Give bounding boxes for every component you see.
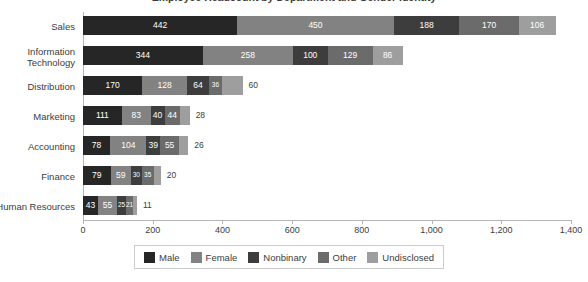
bar-value-label: 21 xyxy=(126,202,133,209)
bar-value-label: 64 xyxy=(193,81,202,90)
bar-segment[interactable]: 55 xyxy=(98,196,117,215)
legend-item[interactable]: Other xyxy=(318,252,357,263)
bar-value-label: 40 xyxy=(153,111,162,120)
bar-segment[interactable]: 442 xyxy=(83,16,237,35)
legend-item[interactable]: Nonbinary xyxy=(248,252,306,263)
bar-segment[interactable]: 170 xyxy=(459,16,518,35)
stacked-bar[interactable]: 442450188170106 xyxy=(83,16,556,35)
bar-value-label: 43 xyxy=(86,201,95,210)
legend-label: Female xyxy=(206,252,238,263)
bar-segment[interactable]: 25 xyxy=(117,196,126,215)
x-axis-tick xyxy=(432,220,433,224)
bar-value-label: 60 xyxy=(249,81,258,90)
legend-item[interactable]: Male xyxy=(144,252,180,263)
bar-segment[interactable]: 106 xyxy=(519,16,556,35)
bar-segment[interactable]: 344 xyxy=(83,46,203,65)
legend-swatch xyxy=(144,252,155,263)
bar-segment[interactable]: 26 xyxy=(179,136,188,155)
bar-value-label: 344 xyxy=(136,51,150,60)
x-axis-tick-label: 1,000 xyxy=(420,225,443,235)
legend-item[interactable]: Undisclosed xyxy=(367,252,434,263)
bar-segment[interactable]: 36 xyxy=(209,76,222,95)
bar-value-label: 83 xyxy=(131,111,140,120)
bar-segment[interactable]: 129 xyxy=(328,46,373,65)
legend-swatch xyxy=(248,252,259,263)
bar-segment[interactable]: 55 xyxy=(160,136,179,155)
x-axis-tick-label: 0 xyxy=(80,225,85,235)
bar-value-label: 258 xyxy=(241,51,255,60)
category-label: Human Resources xyxy=(0,201,75,212)
legend-swatch xyxy=(318,252,329,263)
bar-segment[interactable]: 188 xyxy=(394,16,460,35)
bar-value-label: 39 xyxy=(149,141,158,150)
bar-value-label: 86 xyxy=(383,51,392,60)
bar-segment[interactable]: 11 xyxy=(133,196,137,215)
stacked-bar[interactable]: 170128643660 xyxy=(83,76,243,95)
bar-value-label: 28 xyxy=(196,111,205,120)
bar-value-label: 450 xyxy=(308,21,322,30)
bar-segment[interactable]: 28 xyxy=(180,106,190,125)
bar-segment[interactable]: 128 xyxy=(142,76,187,95)
legend-swatch xyxy=(367,252,378,263)
bar-segment[interactable]: 43 xyxy=(83,196,98,215)
bar-segment[interactable]: 450 xyxy=(237,16,394,35)
stacked-bar[interactable]: 7959303520 xyxy=(83,166,161,185)
bar-segment[interactable]: 30 xyxy=(131,166,141,185)
bar-value-label: 170 xyxy=(482,21,496,30)
bar-segment[interactable]: 86 xyxy=(373,46,403,65)
chart-row: Distribution170128643660 xyxy=(83,76,571,95)
bar-value-label: 78 xyxy=(92,141,101,150)
stacked-bar[interactable]: 4355252111 xyxy=(83,196,137,215)
category-label: Accounting xyxy=(0,141,75,152)
stacked-bar[interactable]: 11183404428 xyxy=(83,106,190,125)
x-axis-tick-label: 200 xyxy=(145,225,160,235)
category-label: Finance xyxy=(0,171,75,182)
category-label: Sales xyxy=(0,21,75,32)
stacked-bar[interactable]: 34425810012986 xyxy=(83,46,403,65)
legend-label: Other xyxy=(333,252,357,263)
bar-segment[interactable]: 104 xyxy=(110,136,146,155)
bar-segment[interactable]: 35 xyxy=(142,166,154,185)
category-label: Marketing xyxy=(0,111,75,122)
chart-row: Marketing11183404428 xyxy=(83,106,571,125)
chart-row: Accounting78104395526 xyxy=(83,136,571,155)
bar-segment[interactable]: 111 xyxy=(83,106,122,125)
bar-value-label: 79 xyxy=(92,171,101,180)
bar-value-label: 111 xyxy=(96,111,109,120)
bar-segment[interactable]: 44 xyxy=(165,106,180,125)
bar-segment[interactable]: 83 xyxy=(122,106,151,125)
chart-title: Employee Headcount by Department and Gen… xyxy=(0,0,588,3)
bar-segment[interactable]: 39 xyxy=(146,136,160,155)
x-axis-tick xyxy=(292,220,293,224)
x-axis-tick-label: 1,400 xyxy=(560,225,583,235)
plot-area: Sales442450188170106Information Technolo… xyxy=(83,12,571,220)
bar-value-label: 36 xyxy=(212,82,219,89)
bar-segment[interactable]: 40 xyxy=(151,106,165,125)
category-label: Information Technology xyxy=(0,46,75,68)
bar-segment[interactable]: 78 xyxy=(83,136,110,155)
legend-item[interactable]: Female xyxy=(191,252,238,263)
bar-segment[interactable]: 79 xyxy=(83,166,111,185)
bar-segment[interactable]: 258 xyxy=(203,46,293,65)
x-axis-tick xyxy=(153,220,154,224)
bar-value-label: 35 xyxy=(144,172,151,179)
chart-row: Human Resources4355252111 xyxy=(83,196,571,215)
bar-segment[interactable]: 20 xyxy=(154,166,161,185)
bar-segment[interactable]: 59 xyxy=(111,166,132,185)
bar-segment[interactable]: 100 xyxy=(293,46,328,65)
bar-segment[interactable]: 170 xyxy=(83,76,142,95)
stacked-bar-chart: Employee Headcount by Department and Gen… xyxy=(0,0,588,282)
stacked-bar[interactable]: 78104395526 xyxy=(83,136,188,155)
x-axis-tick-label: 600 xyxy=(285,225,300,235)
bar-segment[interactable]: 21 xyxy=(126,196,133,215)
bar-value-label: 170 xyxy=(106,81,120,90)
chart-legend: MaleFemaleNonbinaryOtherUndisclosed xyxy=(134,245,444,269)
bar-value-label: 106 xyxy=(530,21,544,30)
bar-value-label: 25 xyxy=(118,202,125,209)
legend-swatch xyxy=(191,252,202,263)
bar-value-label: 59 xyxy=(116,171,125,180)
bar-segment[interactable]: 64 xyxy=(187,76,209,95)
bar-value-label: 442 xyxy=(153,21,167,30)
bar-segment[interactable]: 60 xyxy=(222,76,243,95)
bar-value-label: 55 xyxy=(103,201,112,210)
